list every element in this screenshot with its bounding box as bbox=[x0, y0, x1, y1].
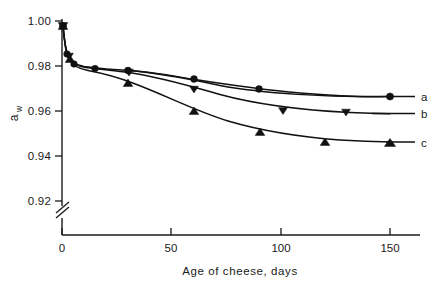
series-a-line bbox=[63, 26, 390, 97]
series-b-line bbox=[63, 26, 390, 114]
series-b-point-4 bbox=[279, 108, 288, 115]
x-tick-label-0: 0 bbox=[59, 242, 65, 254]
x-tick-label-100: 100 bbox=[271, 242, 290, 254]
y-axis-title-base: a bbox=[7, 114, 21, 121]
series-a-point-6 bbox=[256, 86, 263, 93]
y-axis-title: a w bbox=[7, 105, 24, 121]
x-tick-label-150: 150 bbox=[380, 242, 399, 254]
y-tick-labels: 1.00 0.98 0.96 0.94 0.92 bbox=[28, 15, 52, 207]
series-a: a bbox=[59, 22, 428, 103]
series-a-label: a bbox=[421, 91, 428, 103]
x-tick-label-50: 50 bbox=[165, 242, 178, 254]
series-c-point-3 bbox=[189, 107, 199, 114]
series-a-line-tail bbox=[128, 71, 392, 97]
x-tick-labels: 0 50 100 150 bbox=[59, 242, 400, 254]
y-tick-label-0.94: 0.94 bbox=[28, 150, 52, 162]
y-tick-label-0.98: 0.98 bbox=[28, 60, 51, 72]
y-tick-label-1.00: 1.00 bbox=[28, 15, 51, 27]
series-a-point-7 bbox=[386, 93, 393, 100]
series-b: b bbox=[58, 23, 427, 120]
y-tick-label-0.92: 0.92 bbox=[28, 195, 51, 207]
chart-figure: 1.00 0.98 0.96 0.94 0.92 0 50 100 150 a … bbox=[0, 0, 440, 285]
y-axis-title-subscript: w bbox=[14, 105, 24, 113]
series-a-point-5 bbox=[191, 76, 198, 83]
chart-svg: 1.00 0.98 0.96 0.94 0.92 0 50 100 150 a … bbox=[0, 0, 440, 285]
series-b-point-3 bbox=[190, 86, 199, 93]
series-c-label: c bbox=[421, 137, 427, 149]
series-b-label: b bbox=[421, 108, 427, 120]
axes-group bbox=[55, 19, 420, 235]
series-c: c bbox=[58, 22, 427, 149]
x-axis-title: Age of cheese, days bbox=[182, 265, 298, 277]
y-tick-label-0.96: 0.96 bbox=[28, 105, 51, 117]
